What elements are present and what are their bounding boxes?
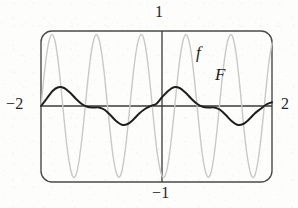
function-graph-figure: 1 −2 2 −1 f F: [0, 0, 298, 208]
axes: [41, 31, 272, 182]
y-axis-label-bottom: −1: [152, 185, 169, 201]
plot-canvas: [0, 0, 298, 208]
curve-label-F: F: [215, 66, 225, 83]
x-axis-label-left: −2: [6, 96, 23, 112]
y-axis-label-top: 1: [155, 4, 163, 20]
x-axis-label-right: 2: [281, 96, 289, 112]
curve-label-f: f: [196, 44, 201, 61]
